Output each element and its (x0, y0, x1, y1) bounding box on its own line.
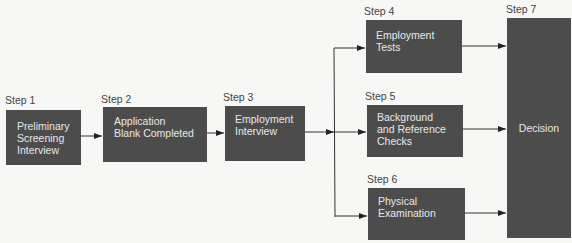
step-2-label: Step 2 (101, 93, 131, 105)
step-5-label: Step 5 (365, 90, 395, 102)
hiring-process-flowchart: Step 1 Preliminary Screening Interview S… (0, 0, 572, 243)
step-1-text: Preliminary Screening Interview (17, 120, 81, 156)
step-2-box: Application Blank Completed (103, 107, 207, 162)
step-6-box: Physical Examination (368, 188, 465, 240)
step-6-label: Step 6 (367, 173, 397, 185)
step-2-text: Application Blank Completed (114, 115, 207, 139)
step-3-box: Employment Interview (225, 106, 305, 161)
step-3-label: Step 3 (223, 91, 253, 103)
step-3-text: Employment Interview (235, 113, 305, 137)
step-7-text: Decision (519, 122, 559, 134)
step-4-label: Step 4 (364, 5, 394, 17)
step-5-box: Background and Reference Checks (367, 105, 463, 157)
step-1-box: Preliminary Screening Interview (6, 110, 81, 165)
step-4-box: Employment Tests (366, 20, 462, 73)
step-4-text: Employment Tests (376, 29, 462, 53)
step-7-label: Step 7 (506, 3, 536, 15)
step-1-label: Step 1 (5, 94, 35, 106)
step-7-box: Decision (507, 18, 571, 238)
step-6-text: Physical Examination (378, 195, 465, 219)
step-5-text: Background and Reference Checks (377, 111, 463, 147)
